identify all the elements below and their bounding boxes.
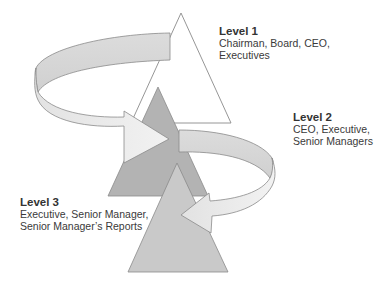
level-3-line-2: Senior Manager’s Reports bbox=[20, 221, 148, 233]
level-3-label: Level 3 Executive, Senior Manager, Senio… bbox=[20, 196, 148, 232]
level-1-line-2: Executives bbox=[219, 50, 330, 62]
level-1-label: Level 1 Chairman, Board, CEO, Executives bbox=[219, 25, 330, 61]
level-2-label: Level 2 CEO, Executive, Senior Managers bbox=[293, 111, 373, 147]
level-2-line-1: CEO, Executive, bbox=[293, 124, 373, 136]
level-1-triangle bbox=[131, 13, 231, 123]
level-2-line-2: Senior Managers bbox=[293, 136, 373, 148]
level-1-line-1: Chairman, Board, CEO, bbox=[219, 38, 330, 50]
level-3-line-1: Executive, Senior Manager, bbox=[20, 209, 148, 221]
